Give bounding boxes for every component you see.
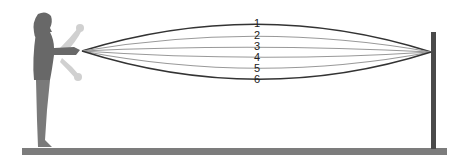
post <box>431 32 436 149</box>
rope-label-6: 6 <box>254 73 260 85</box>
standing-wave-diagram: 1 2 3 4 5 6 <box>0 0 463 161</box>
person-silhouette <box>33 12 80 147</box>
rope-label-1: 1 <box>254 17 260 29</box>
floor <box>22 148 447 155</box>
